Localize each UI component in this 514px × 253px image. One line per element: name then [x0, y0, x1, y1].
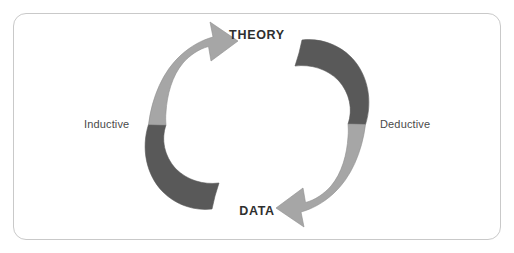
inductive-arrow-tail	[145, 125, 219, 210]
deductive-arrow-tail	[295, 40, 369, 125]
diagram-root: THEORY DATA Inductive Deductive	[0, 0, 514, 253]
label-theory: THEORY	[0, 29, 514, 42]
label-deductive: Deductive	[380, 119, 430, 130]
label-data: DATA	[0, 205, 514, 218]
label-inductive: Inductive	[84, 119, 129, 130]
